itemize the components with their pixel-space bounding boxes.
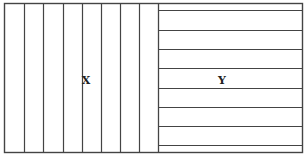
striped-rectangle-diagram xyxy=(0,0,307,155)
region-y-label: Y xyxy=(218,75,226,86)
region-y-horizontal-lines xyxy=(159,11,303,146)
region-x-label: X xyxy=(82,75,91,86)
outer-border xyxy=(5,4,303,153)
